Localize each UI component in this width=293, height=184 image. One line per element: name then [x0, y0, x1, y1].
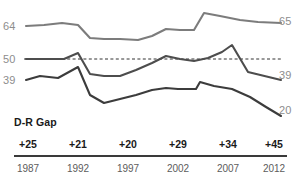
dr-gap-value-2002: +29: [169, 138, 187, 150]
axis-x-tick-1992: 1992: [67, 163, 89, 174]
axis-x-tick-2007: 2007: [217, 163, 239, 174]
series-bottom-line: [26, 67, 281, 116]
chart-container: 64 50 39 65 39 20 D-R Gap +25 +21 +20 +2…: [0, 0, 293, 184]
dr-gap-value-2012: +45: [265, 138, 283, 150]
axis-x-tick-2012: 2012: [263, 163, 285, 174]
axis-rule: [14, 155, 287, 157]
axis-right-tick-65: 65: [279, 15, 292, 27]
axis-left-tick-50: 50: [3, 53, 16, 65]
dr-gap-value-2007: +34: [219, 138, 237, 150]
axis-x-tick-1997: 1997: [117, 163, 139, 174]
axis-left-tick-64: 64: [3, 20, 16, 32]
axis-left-tick-39: 39: [3, 74, 16, 86]
axis-x-tick-1987: 1987: [17, 163, 39, 174]
dr-gap-value-1997: +20: [119, 138, 137, 150]
dr-gap-value-1987: +25: [19, 138, 37, 150]
axis-right-tick-39: 39: [279, 69, 292, 81]
series-top-line: [26, 13, 281, 40]
dr-gap-value-1992: +21: [69, 138, 87, 150]
axis-x-tick-2002: 2002: [167, 163, 189, 174]
axis-right-tick-20: 20: [279, 104, 292, 116]
dr-gap-title: D-R Gap: [14, 116, 57, 128]
